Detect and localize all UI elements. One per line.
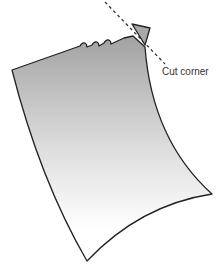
paper-illustration: [0, 0, 224, 277]
cut-corner-label: Cut corner: [162, 66, 209, 77]
